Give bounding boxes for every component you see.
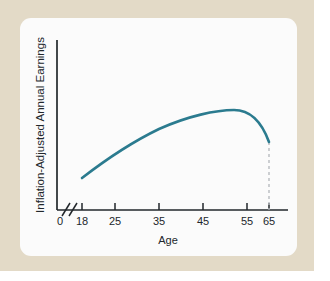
figure-root: 0 18 25 35 45 55 65 Age Inflation-Adjust…	[0, 0, 330, 281]
earnings-curve	[82, 110, 269, 178]
chart-card: 0 18 25 35 45 55 65 Age Inflation-Adjust…	[20, 18, 297, 256]
x-tick-label-45: 45	[197, 215, 209, 227]
x-tick-label-55: 55	[241, 215, 253, 227]
age-earnings-chart: 0 18 25 35 45 55 65 Age Inflation-Adjust…	[20, 18, 297, 256]
y-axis-title: Inflation-Adjusted Annual Earnings	[34, 37, 46, 213]
x-tick-label-0: 0	[57, 215, 63, 227]
x-axis-title: Age	[158, 234, 178, 246]
x-tick-label-35: 35	[153, 215, 165, 227]
x-tick-label-25: 25	[109, 215, 121, 227]
x-axis-ticks	[82, 203, 269, 210]
x-tick-label-65: 65	[263, 215, 275, 227]
x-tick-label-18: 18	[76, 215, 88, 227]
